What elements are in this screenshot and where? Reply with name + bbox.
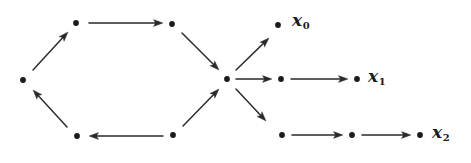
central-hub-vertex	[224, 76, 230, 82]
edge-upper-left-to-upper-mid	[89, 20, 163, 27]
edge-lower-mid-to-hub-shaft	[183, 93, 215, 126]
x0-terminal-vertex	[275, 22, 281, 28]
upper-middle-vertex	[169, 21, 175, 27]
state-label-x1-subscript: 1	[379, 76, 386, 87]
graph-canvas	[0, 0, 471, 163]
state-label-x2-base: x	[432, 122, 442, 142]
edge-lower-left-to-left-shaft	[37, 94, 67, 127]
middle-branch-vertex-1	[278, 76, 284, 82]
edge-upper-mid-to-hub	[182, 33, 219, 70]
upper-left-vertex	[73, 20, 79, 26]
state-label-x2-subscript: 2	[443, 132, 450, 143]
edge-hub-to-lower-1-shaft	[236, 89, 262, 117]
edge-lower-left-to-left	[33, 90, 67, 127]
state-label-x0-base: x	[292, 10, 302, 30]
state-label-x1-base: x	[368, 66, 378, 86]
edge-hub-to-lower-1	[236, 89, 266, 121]
edge-left-to-upper-left	[33, 32, 68, 70]
state-label-x0: x0	[292, 12, 310, 29]
left-vertex	[20, 77, 26, 83]
edge-middle-1-to-middle-2	[291, 76, 348, 83]
lower-middle-vertex	[170, 132, 176, 138]
state-label-x1: x1	[368, 68, 386, 85]
edge-lower-2-to-lower-3	[362, 132, 411, 139]
middle-branch-vertex-2	[354, 76, 360, 82]
lower-branch-vertex-3	[417, 132, 423, 138]
edge-upper-mid-to-hub-shaft	[182, 33, 215, 66]
edge-hub-to-x0-shaft	[236, 42, 265, 70]
lower-left-vertex	[74, 133, 80, 139]
edge-lower-left-to-lower-mid	[89, 133, 163, 140]
edge-left-to-upper-left-shaft	[33, 36, 64, 70]
edge-lower-1-to-lower-2	[292, 132, 343, 139]
directed-graph-figure: x0x1x2	[0, 0, 471, 163]
node-layer	[20, 20, 423, 139]
edge-hub-to-middle-1	[236, 76, 272, 83]
state-label-x2: x2	[432, 124, 450, 141]
lower-branch-vertex-2	[349, 132, 355, 138]
state-label-x0-subscript: 0	[303, 20, 310, 31]
edge-hub-to-x0	[236, 38, 269, 70]
lower-branch-vertex-1	[279, 132, 285, 138]
edge-lower-mid-to-hub	[183, 89, 219, 126]
